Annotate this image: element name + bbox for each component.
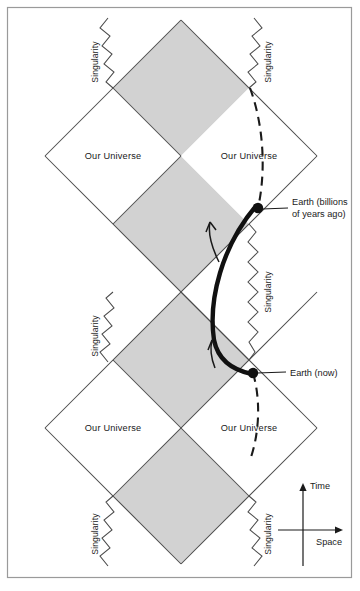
- space-axis-label: Space: [316, 537, 342, 547]
- singularity-top-right-label: Singularity: [263, 41, 273, 83]
- universe-bottom-left-label: Our Universe: [85, 423, 142, 433]
- earth-now-label: Earth (now): [290, 368, 338, 378]
- singularity-bottom-left-label: Singularity: [90, 513, 100, 555]
- earth-past-label-line2: of years ago): [292, 209, 346, 219]
- universe-top-left-label: Our Universe: [85, 151, 142, 161]
- universe-bottom-right-label: Our Universe: [221, 423, 278, 433]
- penrose-diagram-figure: Our Universe Our Universe Our Universe O…: [0, 0, 360, 591]
- diagram-canvas: Our Universe Our Universe Our Universe O…: [0, 0, 360, 591]
- singularity-bottom-right-label: Singularity: [263, 513, 273, 555]
- singularity-mid-right-label: Singularity: [263, 271, 273, 313]
- universe-top-right-label: Our Universe: [221, 151, 278, 161]
- earth-now-dot: [248, 368, 258, 378]
- earth-past-label-line1: Earth (billions: [292, 197, 348, 207]
- singularity-top-left-label: Singularity: [90, 41, 100, 83]
- singularity-mid-left-label: Singularity: [90, 315, 100, 357]
- time-axis-label: Time: [310, 481, 330, 491]
- earth-past-dot: [253, 203, 263, 213]
